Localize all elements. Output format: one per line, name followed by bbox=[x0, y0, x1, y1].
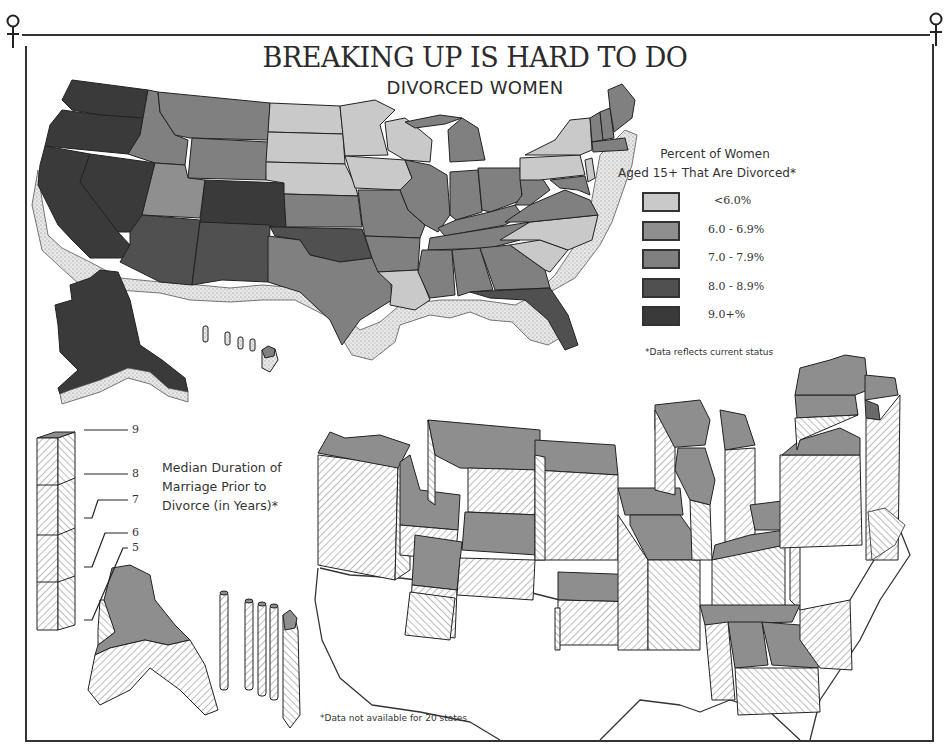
bar-map-marriage-duration bbox=[37, 355, 910, 740]
state-new-york bbox=[525, 118, 592, 155]
state-north-dakota bbox=[268, 103, 343, 134]
state-hawaii-island bbox=[203, 326, 208, 342]
bar-top-new-york bbox=[795, 355, 868, 395]
legend-swatch bbox=[642, 249, 680, 269]
scale-tick-6: 6 bbox=[132, 526, 139, 539]
legend-title-line1: Percent of Women bbox=[640, 145, 790, 164]
state-hawaii-top bbox=[262, 346, 275, 358]
bar-top-north-dakota bbox=[535, 440, 618, 475]
legend-title: Percent of Women Aged 15+ That Are Divor… bbox=[640, 145, 790, 183]
bar-hawaii-big-island bbox=[283, 615, 300, 728]
legend-footnote: *Data reflects current status bbox=[645, 347, 773, 357]
bar-top-new-jersey bbox=[865, 400, 880, 420]
state-oregon bbox=[45, 110, 143, 154]
bar-hawaii-island bbox=[270, 605, 278, 700]
state-kansas bbox=[284, 194, 362, 227]
duration-footnote: *Data not available for 20 states bbox=[320, 713, 467, 723]
state-hawaii-island bbox=[238, 337, 243, 349]
legend-label: 7.0 - 7.9% bbox=[708, 251, 764, 264]
state-montana bbox=[158, 92, 270, 140]
bar-top-montana bbox=[428, 420, 540, 470]
bar-hawaii-island bbox=[220, 592, 228, 690]
bar-top-alabama bbox=[728, 622, 768, 668]
bar-hawaii-island bbox=[258, 603, 266, 696]
bar-top-michigan bbox=[720, 410, 755, 450]
legend-title-line2: Aged 15+ That Are Divorced* bbox=[618, 164, 790, 183]
legend-swatch bbox=[642, 278, 680, 298]
state-michigan bbox=[448, 118, 485, 162]
scale-tick-7: 7 bbox=[132, 493, 139, 506]
bar-oregon-side bbox=[318, 455, 398, 580]
bar-hawaii-island bbox=[245, 600, 253, 690]
state-hawaii-island bbox=[250, 339, 255, 351]
scale-tick-8: 8 bbox=[132, 467, 139, 480]
state-colorado bbox=[200, 180, 286, 227]
bar-top-utah bbox=[412, 535, 462, 590]
legend-swatch bbox=[642, 306, 680, 326]
state-hawaii-island bbox=[225, 332, 230, 345]
legend-label: 9.0+% bbox=[708, 308, 745, 321]
bar-top-virginia bbox=[782, 428, 860, 455]
state-pennsylvania bbox=[520, 155, 585, 180]
duration-legend-title: Median Duration of Marriage Prior to Div… bbox=[162, 458, 312, 515]
duration-title-line1: Median Duration of bbox=[162, 458, 312, 477]
legend-label: 8.0 - 8.9% bbox=[708, 280, 764, 293]
scale-tick-9: 9 bbox=[132, 423, 139, 436]
state-south-dakota bbox=[266, 132, 345, 164]
scale-tick-5: 5 bbox=[132, 541, 139, 554]
maps-canvas bbox=[0, 0, 950, 753]
bar-top-wyoming bbox=[462, 512, 540, 555]
state-iowa bbox=[345, 156, 412, 190]
state-new-jersey bbox=[585, 158, 595, 182]
state-wyoming bbox=[188, 138, 268, 180]
duration-title-line2: Marriage Prior to bbox=[162, 477, 312, 496]
bar-top-massachusetts bbox=[865, 375, 898, 400]
state-new-mexico bbox=[192, 222, 270, 285]
duration-title-line3: Divorce (in Years)* bbox=[162, 496, 312, 515]
legend-label: <6.0% bbox=[714, 194, 751, 207]
bar-top-pennsylvania bbox=[795, 395, 858, 418]
legend-label: 6.0 - 6.9% bbox=[708, 223, 764, 236]
legend-swatch bbox=[642, 192, 680, 212]
state-indiana bbox=[450, 170, 482, 220]
choropleth-map-divorced-women bbox=[32, 80, 637, 404]
legend-swatch bbox=[642, 221, 680, 241]
